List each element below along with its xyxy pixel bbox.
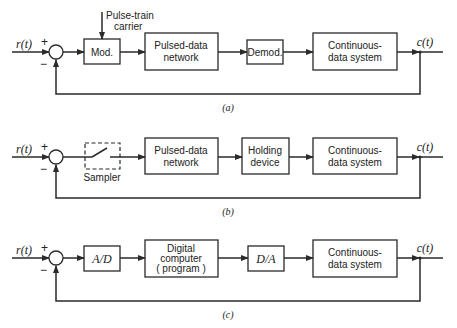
- plus-sign: +: [41, 140, 48, 154]
- block-label-line2: data system: [328, 157, 382, 168]
- summing-junction: [49, 150, 63, 164]
- carrier-label-1: Pulse-train: [106, 10, 154, 21]
- diagram-c: r(t) + − A/D Digital computer ( program …: [12, 240, 443, 321]
- block-label-line2: device: [251, 157, 280, 168]
- sampler-block: [85, 143, 120, 169]
- da-label: D/A: [255, 252, 276, 266]
- diagram-a: r(t) + − Mod. Pulse-train carrier Pulsed…: [12, 10, 443, 114]
- block-label-line2: data system: [328, 259, 382, 270]
- minus-sign: −: [40, 263, 47, 277]
- block-label-line1: Pulsed-data: [154, 40, 208, 51]
- sampler-switch-icon: [92, 148, 107, 157]
- plus-sign: +: [41, 241, 48, 255]
- minus-sign: −: [40, 57, 47, 71]
- output-label: c(t): [417, 241, 434, 255]
- demod-label: Demod.: [247, 47, 282, 58]
- block-label-line1: Continuous-: [328, 247, 382, 258]
- input-label: r(t): [16, 37, 32, 51]
- carrier-label-2: carrier: [114, 21, 143, 32]
- block-label-line2: network: [163, 52, 199, 63]
- caption-a: (a): [222, 102, 234, 114]
- output-label: c(t): [417, 140, 434, 154]
- block-label-line2: data system: [328, 52, 382, 63]
- summing-junction: [49, 251, 63, 265]
- minus-sign: −: [40, 162, 47, 176]
- plus-sign: +: [41, 35, 48, 49]
- block-label-line3: ( program ): [156, 263, 205, 274]
- pulsed-data-network-block: [145, 138, 218, 174]
- block-label-line1: Continuous-: [328, 145, 382, 156]
- block-label-line1: Continuous-: [328, 40, 382, 51]
- mod-label: Mod.: [91, 47, 113, 58]
- diagram-b: r(t) + − Sampler Pulsed-data network Hol…: [12, 138, 443, 218]
- holding-device-block: [242, 138, 289, 174]
- block-label-line1: Pulsed-data: [154, 145, 208, 156]
- summing-junction: [49, 45, 63, 59]
- input-label: r(t): [16, 142, 32, 156]
- input-label: r(t): [16, 243, 32, 257]
- continuous-data-system-block: [313, 138, 397, 174]
- output-label: c(t): [417, 35, 434, 49]
- sampler-label: Sampler: [83, 172, 121, 183]
- block-label-line1: Holding: [248, 145, 282, 156]
- block-label-line2: network: [163, 157, 199, 168]
- block-diagram-figure: r(t) + − Mod. Pulse-train carrier Pulsed…: [0, 0, 457, 328]
- caption-c: (c): [222, 309, 234, 321]
- caption-b: (b): [222, 206, 234, 218]
- ad-label: A/D: [91, 252, 112, 266]
